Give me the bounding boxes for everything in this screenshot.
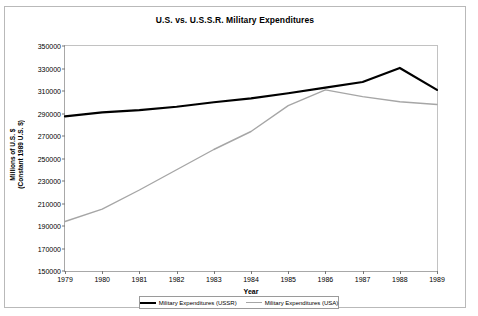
y-axis-tick-mark: [62, 203, 65, 204]
y-axis-tick-mark: [62, 46, 65, 47]
y-axis-title-line1: Millions of U.S. $: [9, 120, 17, 189]
x-axis-title: Year: [64, 288, 438, 295]
y-axis-tick-label: 190000: [38, 223, 61, 230]
y-axis-tick-label: 230000: [38, 178, 61, 185]
x-axis-tick-mark: [437, 271, 438, 274]
x-axis-tick-label: 1983: [206, 276, 222, 283]
y-axis-tick-mark: [62, 136, 65, 137]
legend-label-usa: Military Expenditures (USA): [265, 300, 339, 306]
x-axis-tick-label: 1989: [429, 276, 445, 283]
y-axis-tick-label: 330000: [38, 65, 61, 72]
y-axis-tick-label: 170000: [38, 245, 61, 252]
plot-wrapper: Millions of U.S. $ (Constant 1989 U.S. $…: [0, 0, 478, 316]
y-axis-tick-mark: [62, 226, 65, 227]
series-lines: [65, 46, 437, 271]
chart-legend: Military Expenditures (USSR) Military Ex…: [139, 296, 339, 309]
legend-label-ussr: Military Expenditures (USSR): [159, 300, 237, 306]
y-axis-tick-mark: [62, 181, 65, 182]
legend-item-ussr: Military Expenditures (USSR): [140, 300, 237, 306]
x-axis-tick-label: 1985: [280, 276, 296, 283]
x-axis-tick-mark: [251, 271, 252, 274]
y-axis-tick-label: 150000: [38, 268, 61, 275]
y-axis-tick-label: 310000: [38, 88, 61, 95]
y-axis-title-line2: (Constant 1989 U.S. $): [17, 120, 25, 189]
y-axis-title: Millions of U.S. $ (Constant 1989 U.S. $…: [9, 120, 23, 189]
y-axis-tick-label: 210000: [38, 200, 61, 207]
x-axis-tick-label: 1981: [132, 276, 148, 283]
x-axis-tick-label: 1987: [355, 276, 371, 283]
legend-swatch-usa: [246, 302, 262, 303]
y-axis-tick-mark: [62, 248, 65, 249]
y-axis-tick-label: 350000: [38, 43, 61, 50]
x-axis-tick-mark: [214, 271, 215, 274]
series-line: [65, 90, 437, 222]
x-axis-tick-label: 1988: [392, 276, 408, 283]
x-axis-tick-mark: [102, 271, 103, 274]
legend-swatch-ussr: [140, 302, 156, 304]
x-axis-tick-mark: [65, 271, 66, 274]
x-axis-tick-label: 1986: [318, 276, 334, 283]
x-axis-tick-label: 1980: [94, 276, 110, 283]
x-axis-tick-mark: [325, 271, 326, 274]
x-axis-tick-label: 1979: [57, 276, 73, 283]
y-axis-tick-label: 270000: [38, 133, 61, 140]
x-axis-tick-mark: [139, 271, 140, 274]
series-line: [65, 68, 437, 116]
y-axis-tick-mark: [62, 113, 65, 114]
x-axis-tick-label: 1984: [243, 276, 259, 283]
plot-area: 1500001700001900002100002300002500002700…: [64, 45, 438, 272]
x-axis-tick-mark: [177, 271, 178, 274]
y-axis-tick-mark: [62, 158, 65, 159]
y-axis-tick-label: 250000: [38, 155, 61, 162]
y-axis-tick-label: 290000: [38, 110, 61, 117]
x-axis-tick-mark: [288, 271, 289, 274]
y-axis-tick-mark: [62, 91, 65, 92]
legend-item-usa: Military Expenditures (USA): [246, 300, 339, 306]
y-axis-tick-mark: [62, 68, 65, 69]
x-axis-tick-mark: [400, 271, 401, 274]
x-axis-tick-label: 1982: [169, 276, 185, 283]
x-axis-tick-mark: [363, 271, 364, 274]
